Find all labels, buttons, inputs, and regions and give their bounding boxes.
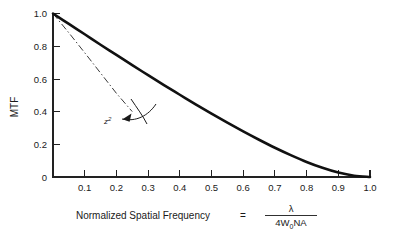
- y-tick-label: 0.2: [34, 139, 47, 150]
- x-tick-label: 0.2: [110, 182, 123, 193]
- x-tick-label: 1.0: [363, 182, 376, 193]
- y-tick-label: 1.0: [34, 8, 47, 19]
- denominator-part-b: NA: [293, 217, 307, 228]
- x-tick-label: 0.1: [78, 182, 91, 193]
- mtf-chart-figure: 1.0 0.8 0.6 0.4 0.2 0 MTF 0.1 0.2 0.3: [0, 0, 398, 236]
- chart-svg: 1.0 0.8 0.6 0.4 0.2 0 MTF 0.1 0.2 0.3: [0, 0, 398, 236]
- y-axis-title: MTF: [9, 97, 20, 118]
- x-tick-label: 0.6: [237, 182, 250, 193]
- x-axis-title-equals: =: [240, 210, 246, 221]
- y-tick-label: 0.4: [34, 106, 47, 117]
- x-tick-label: 0.3: [141, 182, 154, 193]
- y-tick-label: 0.8: [34, 41, 47, 52]
- chart-background: [0, 0, 398, 236]
- x-tick-label: 0.4: [173, 182, 186, 193]
- x-tick-label: 0.5: [205, 182, 218, 193]
- x-tick-label: 0.8: [300, 182, 313, 193]
- y-tick-label: 0.6: [34, 74, 47, 85]
- denominator-part-a: 4W: [275, 217, 289, 228]
- x-tick-label: 0.9: [332, 182, 345, 193]
- y-tick-label: 0: [42, 172, 47, 183]
- x-axis-title-numerator: λ: [289, 203, 294, 214]
- x-axis-title-text: Normalized Spatial Frequency: [76, 210, 210, 221]
- annotation-label-superscript: 2: [107, 116, 112, 122]
- x-tick-label: 0.7: [268, 182, 281, 193]
